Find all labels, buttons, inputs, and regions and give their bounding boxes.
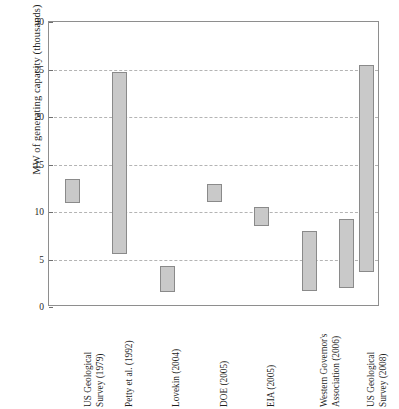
gridline-10 [49,212,378,213]
x-label-line1: US Geological [366,352,376,407]
x-label-line1: US Geological [83,352,93,407]
x-axis-label: Lovekin (2004) [171,307,183,407]
plot-area: 051015202530 [48,21,379,306]
x-label-line1: EIA (2005) [266,365,276,407]
x-axis-label: Petty et al. (1992) [124,307,136,407]
range-bar [160,266,175,292]
gridline-5 [49,260,378,261]
x-axis-label: DOE (2005) [219,307,231,407]
x-label-line2: Survey (1979) [94,307,106,407]
gridline-15 [49,165,378,166]
x-axis-label: US GeologicalSurvey (1979) [83,307,106,407]
y-tick-label-10: 10 [35,207,50,217]
x-axis-label: EIA (2005) [266,307,278,407]
x-axis-label: Western Governor'sAssociation (2006) [319,307,342,407]
range-bar [65,179,80,203]
y-tick-label-30: 30 [35,17,50,27]
range-bar-chart: MW of generating capacity (thousands) 05… [0,0,399,409]
x-label-line2: Survey (2008) [378,307,390,407]
x-label-line1: Lovekin (2004) [171,349,181,407]
y-axis-title: MW of generating capacity (thousands) [31,0,42,210]
gridline-25 [49,70,378,71]
x-axis-labels: US GeologicalSurvey (1979)Petty et al. (… [48,307,379,409]
range-bar [112,72,127,253]
range-bar [302,231,317,291]
y-tick-label-15: 15 [35,160,50,170]
range-bar [339,219,354,288]
y-tick-label-25: 25 [35,65,50,75]
x-label-line1: Petty et al. (1992) [124,340,134,407]
gridline-20 [49,117,378,118]
y-tick-label-20: 20 [35,112,50,122]
range-bar [359,65,374,272]
y-tick-label-5: 5 [39,255,49,265]
range-bar [207,184,222,202]
x-axis-label: US GeologicalSurvey (2008) [366,307,389,407]
x-label-line1: DOE (2005) [219,361,229,407]
x-label-line2: Association (2006) [331,307,343,407]
range-bar [254,207,269,226]
x-label-line1: Western Governor's [319,334,329,407]
